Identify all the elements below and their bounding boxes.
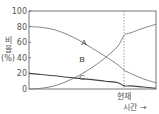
y-tick-20: 20	[17, 69, 27, 78]
plot-frame	[29, 11, 156, 89]
line-chart: 100 80 60 40 20 0 비 율 (%) 현재 시간 → A B C	[0, 0, 159, 114]
y-axis-label-2: 율	[5, 45, 12, 54]
series-c-label: C	[79, 73, 85, 82]
y-axis-unit: (%)	[1, 54, 15, 63]
y-tick-100: 100	[12, 7, 27, 16]
now-marker-label: 현재	[117, 92, 131, 101]
y-axis-label-1: 비	[5, 36, 12, 45]
series-b-label: B	[79, 55, 85, 64]
y-tick-40: 40	[17, 54, 27, 63]
y-tick-0: 0	[22, 85, 27, 94]
series-a-line	[29, 27, 156, 83]
y-tick-60: 60	[17, 38, 27, 47]
series-c-line	[29, 73, 156, 88]
x-axis-label: 시간 →	[123, 102, 147, 112]
y-tick-80: 80	[17, 23, 27, 32]
series-a-label: A	[80, 38, 87, 47]
